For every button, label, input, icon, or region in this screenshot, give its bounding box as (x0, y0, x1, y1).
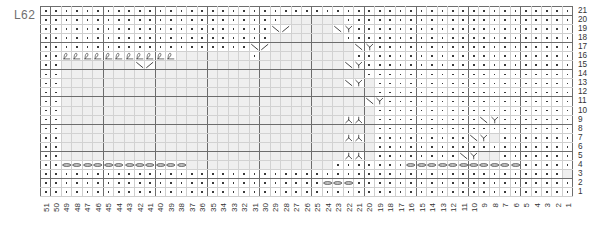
cell-bind-off[interactable] (448, 160, 458, 169)
cell-knit[interactable] (437, 70, 447, 79)
cell-knit[interactable] (531, 79, 541, 88)
cell-no-stitch[interactable] (343, 124, 353, 133)
cell-knit[interactable] (437, 133, 447, 142)
cell-knit[interactable] (406, 187, 416, 196)
cell-knit[interactable] (458, 34, 468, 43)
cell-knit[interactable] (479, 61, 489, 70)
cell-knit[interactable] (134, 7, 144, 16)
cell-knit[interactable] (500, 133, 510, 142)
cell-knit[interactable] (542, 133, 552, 142)
cell-knit[interactable] (406, 88, 416, 97)
cell-knit[interactable] (270, 169, 280, 178)
cell-no-stitch[interactable] (322, 25, 332, 34)
cell-knit[interactable] (364, 7, 374, 16)
cell-knit[interactable] (249, 16, 259, 25)
cell-knit[interactable] (542, 16, 552, 25)
cell-knit[interactable] (531, 142, 541, 151)
cell-no-stitch[interactable] (93, 133, 103, 142)
cell-knit[interactable] (500, 43, 510, 52)
cell-knit[interactable] (208, 187, 218, 196)
cell-knit[interactable] (521, 7, 531, 16)
cell-knit[interactable] (448, 115, 458, 124)
cell-no-stitch[interactable] (155, 61, 165, 70)
cell-no-stitch[interactable] (228, 88, 238, 97)
cell-knit[interactable] (93, 16, 103, 25)
cell-knit[interactable] (468, 34, 478, 43)
cell-knit[interactable] (521, 124, 531, 133)
cell-no-stitch[interactable] (239, 88, 249, 97)
cell-knit[interactable] (93, 178, 103, 187)
cell-knit[interactable] (427, 16, 437, 25)
cell-loop-cast-on[interactable] (93, 52, 103, 61)
cell-knit[interactable] (260, 178, 270, 187)
cell-no-stitch[interactable] (489, 151, 499, 160)
cell-no-stitch[interactable] (114, 115, 124, 124)
cell-loop-cast-on[interactable] (103, 52, 113, 61)
cell-knit[interactable] (406, 43, 416, 52)
cell-knit[interactable] (395, 43, 405, 52)
cell-knit[interactable] (479, 124, 489, 133)
cell-no-stitch[interactable] (301, 115, 311, 124)
cell-no-stitch[interactable] (301, 151, 311, 160)
cell-knit[interactable] (468, 169, 478, 178)
cell-knit[interactable] (427, 142, 437, 151)
cell-knit[interactable] (61, 16, 71, 25)
cell-no-stitch[interactable] (218, 160, 228, 169)
cell-no-stitch[interactable] (322, 34, 332, 43)
cell-knit[interactable] (448, 25, 458, 34)
cell-knit[interactable] (510, 34, 520, 43)
cell-knit[interactable] (218, 25, 228, 34)
cell-knit[interactable] (458, 79, 468, 88)
cell-knit[interactable] (406, 142, 416, 151)
cell-knit[interactable] (479, 34, 489, 43)
cell-knit[interactable] (134, 25, 144, 34)
cell-knit[interactable] (468, 61, 478, 70)
cell-no-stitch[interactable] (208, 106, 218, 115)
cell-ssk[interactable] (270, 25, 280, 34)
cell-no-stitch[interactable] (134, 151, 144, 160)
cell-knit[interactable] (510, 97, 520, 106)
cell-knit[interactable] (542, 52, 552, 61)
cell-no-stitch[interactable] (218, 52, 228, 61)
cell-knit[interactable] (375, 7, 385, 16)
cell-no-stitch[interactable] (301, 97, 311, 106)
cell-knit[interactable] (197, 7, 207, 16)
cell-knit[interactable] (176, 34, 186, 43)
cell-no-stitch[interactable] (354, 97, 364, 106)
cell-knit[interactable] (427, 187, 437, 196)
cell-knit[interactable] (552, 79, 562, 88)
cell-no-stitch[interactable] (103, 88, 113, 97)
cell-no-stitch[interactable] (343, 106, 353, 115)
cell-no-stitch[interactable] (249, 124, 259, 133)
cell-no-stitch[interactable] (82, 151, 92, 160)
cell-no-stitch[interactable] (281, 97, 291, 106)
cell-knit[interactable] (510, 151, 520, 160)
cell-knit[interactable] (249, 34, 259, 43)
cell-knit[interactable] (479, 79, 489, 88)
cell-no-stitch[interactable] (228, 115, 238, 124)
cell-ssk[interactable] (479, 115, 489, 124)
cell-bind-off[interactable] (166, 160, 176, 169)
cell-knit[interactable] (500, 178, 510, 187)
cell-knit[interactable] (448, 106, 458, 115)
cell-knit[interactable] (489, 43, 499, 52)
cell-knit[interactable] (354, 16, 364, 25)
cell-no-stitch[interactable] (270, 133, 280, 142)
cell-knit[interactable] (364, 61, 374, 70)
cell-knit[interactable] (552, 169, 562, 178)
cell-knit[interactable] (333, 187, 343, 196)
cell-knit[interactable] (103, 187, 113, 196)
cell-no-stitch[interactable] (208, 151, 218, 160)
cell-bind-off[interactable] (322, 178, 332, 187)
cell-knit[interactable] (427, 178, 437, 187)
cell-no-stitch[interactable] (103, 115, 113, 124)
cell-no-stitch[interactable] (72, 70, 82, 79)
cell-knit[interactable] (239, 169, 249, 178)
cell-knit[interactable] (176, 178, 186, 187)
cell-no-stitch[interactable] (82, 88, 92, 97)
cell-knit[interactable] (82, 187, 92, 196)
cell-bind-off[interactable] (103, 160, 113, 169)
cell-no-stitch[interactable] (333, 106, 343, 115)
cell-knit[interactable] (437, 124, 447, 133)
cell-no-stitch[interactable] (218, 124, 228, 133)
